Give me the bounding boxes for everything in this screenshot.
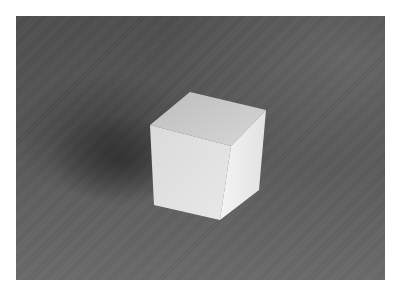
cube-illustration <box>0 0 400 295</box>
